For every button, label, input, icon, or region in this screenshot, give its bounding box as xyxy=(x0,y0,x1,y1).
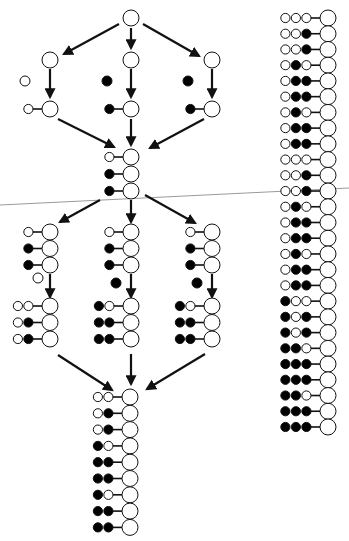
stack-row xyxy=(281,372,336,388)
anchor-circle xyxy=(320,26,336,42)
filled-bead xyxy=(281,391,290,400)
open-bead xyxy=(291,45,300,54)
stack-row xyxy=(93,487,138,503)
arrow xyxy=(143,24,199,56)
filled-bead xyxy=(302,92,311,101)
stack-row xyxy=(281,26,336,42)
anchor-circle xyxy=(123,257,139,273)
filled-bead xyxy=(104,458,113,467)
anchor-circle xyxy=(123,166,139,182)
stack-row xyxy=(186,241,220,257)
stage1-middle xyxy=(105,101,139,117)
open-bead xyxy=(302,202,311,211)
anchor-circle xyxy=(122,471,138,487)
stack-row xyxy=(281,183,336,199)
filled-bead xyxy=(291,281,300,290)
filled-bead xyxy=(302,139,311,148)
open-bead xyxy=(13,301,22,310)
stack-row xyxy=(186,101,220,117)
nodes-layer xyxy=(13,10,336,535)
open-bead xyxy=(104,392,113,401)
filled-bead xyxy=(93,523,102,532)
filled-bead xyxy=(186,244,195,253)
anchor-circle xyxy=(320,403,336,419)
anchor-circle xyxy=(123,224,139,240)
filled-bead xyxy=(281,312,290,321)
stack-row xyxy=(175,315,220,331)
filled-bead xyxy=(291,76,300,85)
filled-bead xyxy=(105,104,114,113)
stack-row xyxy=(123,10,139,26)
filled-bead xyxy=(24,334,33,343)
filled-bead xyxy=(105,260,114,269)
stage1-empty xyxy=(42,52,58,68)
open-bead xyxy=(105,301,114,310)
filled-bead xyxy=(302,422,311,431)
anchor-circle xyxy=(122,519,138,535)
filled-bead xyxy=(94,334,103,343)
filled-bead xyxy=(104,507,113,516)
anchor-circle xyxy=(320,325,336,341)
stage2-middle-before xyxy=(105,224,139,273)
stack-row xyxy=(281,41,336,57)
stack-row xyxy=(42,52,58,68)
anchor-circle xyxy=(123,241,139,257)
filled-bead xyxy=(291,202,300,211)
filled-bead xyxy=(291,391,300,400)
stack-row xyxy=(281,246,336,262)
filled-bead xyxy=(93,441,102,450)
open-bead xyxy=(20,76,30,86)
open-bead xyxy=(281,124,290,133)
filled-bead xyxy=(24,244,33,253)
open-bead xyxy=(281,45,290,54)
anchor-circle xyxy=(320,136,336,152)
arrow xyxy=(147,354,205,389)
open-bead xyxy=(291,29,300,38)
filled-bead xyxy=(291,218,300,227)
open-bead xyxy=(291,312,300,321)
open-bead xyxy=(302,13,311,22)
anchor-circle xyxy=(320,120,336,136)
open-bead xyxy=(291,297,300,306)
stack-row xyxy=(105,224,139,240)
anchor-circle xyxy=(320,214,336,230)
filled-bead xyxy=(281,328,290,337)
filled-bead xyxy=(281,422,290,431)
anchor-circle xyxy=(204,298,220,314)
stack-row xyxy=(281,152,336,168)
final-column xyxy=(281,10,336,435)
anchor-circle xyxy=(320,388,336,404)
stage2-middle xyxy=(94,298,139,347)
filled-bead xyxy=(281,359,290,368)
filled-bead xyxy=(302,171,311,180)
open-bead xyxy=(302,297,311,306)
stack-row xyxy=(105,257,139,273)
anchor-circle xyxy=(42,52,58,68)
filled-bead xyxy=(175,318,184,327)
stack-row xyxy=(94,331,139,347)
anchor-circle xyxy=(320,167,336,183)
anchor-circle xyxy=(123,298,139,314)
filled-bead xyxy=(302,124,311,133)
merge2-node xyxy=(93,389,138,535)
anchor-circle xyxy=(123,149,139,165)
anchor-circle xyxy=(320,246,336,262)
filled-bead xyxy=(291,265,300,274)
incoming-bead xyxy=(183,76,193,86)
filled-bead xyxy=(105,318,114,327)
open-bead xyxy=(281,186,290,195)
arrow xyxy=(145,195,195,223)
arrow xyxy=(60,200,100,222)
stack-row xyxy=(281,104,336,120)
filled-bead xyxy=(24,318,33,327)
stack-row xyxy=(123,52,139,68)
open-bead xyxy=(302,108,311,117)
stack-row xyxy=(281,10,336,26)
incoming-bead xyxy=(20,76,30,86)
filled-bead xyxy=(281,344,290,353)
open-bead xyxy=(281,76,290,85)
open-bead xyxy=(302,249,311,258)
anchor-circle xyxy=(42,315,58,331)
anchor-circle xyxy=(320,183,336,199)
open-bead xyxy=(281,234,290,243)
